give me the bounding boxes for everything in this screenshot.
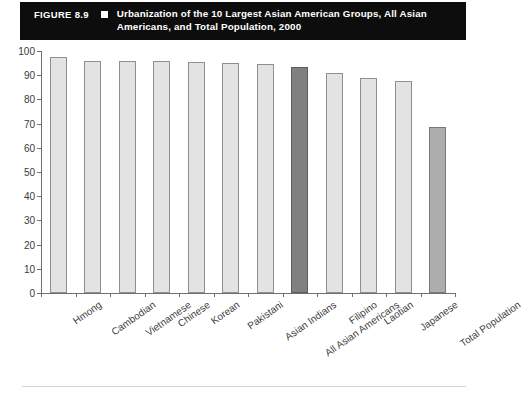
y-tick bbox=[37, 245, 41, 246]
bottom-divider bbox=[22, 386, 466, 387]
x-tick-label: Asian Indians bbox=[283, 299, 338, 342]
bar bbox=[429, 127, 446, 293]
bar bbox=[50, 57, 67, 293]
y-tick-label: 0 bbox=[29, 288, 35, 299]
square-bullet-icon bbox=[101, 11, 108, 18]
x-tick bbox=[352, 293, 353, 297]
y-tick-label: 90 bbox=[24, 70, 35, 81]
bar bbox=[188, 62, 205, 293]
x-tick bbox=[145, 293, 146, 297]
x-tick bbox=[421, 293, 422, 297]
y-axis-line bbox=[41, 51, 42, 294]
y-tick-label: 60 bbox=[24, 142, 35, 153]
y-tick-label: 80 bbox=[24, 94, 35, 105]
x-tick bbox=[248, 293, 249, 297]
y-tick bbox=[37, 196, 41, 197]
x-tick bbox=[76, 293, 77, 297]
bar bbox=[222, 63, 239, 293]
figure-header: FIGURE 8.9 Urbanization of the 10 Larges… bbox=[20, 2, 466, 40]
bar bbox=[119, 61, 136, 293]
x-tick bbox=[386, 293, 387, 297]
x-tick bbox=[41, 293, 42, 297]
x-tick bbox=[110, 293, 111, 297]
bar bbox=[291, 67, 308, 293]
y-tick-label: 50 bbox=[24, 167, 35, 178]
y-tick-label: 70 bbox=[24, 118, 35, 129]
x-tick-label: Hmong bbox=[71, 299, 104, 327]
y-tick bbox=[37, 172, 41, 173]
bar bbox=[360, 78, 377, 293]
x-tick-label: Japanese bbox=[418, 299, 460, 333]
x-tick bbox=[179, 293, 180, 297]
y-tick bbox=[37, 75, 41, 76]
y-tick bbox=[37, 148, 41, 149]
y-tick-label: 10 bbox=[24, 263, 35, 274]
bar bbox=[395, 81, 412, 293]
y-tick bbox=[37, 99, 41, 100]
plot-area: 0102030405060708090100 HmongCambodianVie… bbox=[41, 51, 455, 293]
y-tick-label: 30 bbox=[24, 215, 35, 226]
figure-number: FIGURE 8.9 bbox=[34, 8, 89, 21]
y-tick bbox=[37, 124, 41, 125]
x-tick bbox=[455, 293, 456, 297]
y-tick bbox=[37, 220, 41, 221]
bar bbox=[153, 61, 170, 293]
x-tick bbox=[214, 293, 215, 297]
y-tick-label: 20 bbox=[24, 239, 35, 250]
bar bbox=[257, 64, 274, 293]
bar bbox=[326, 73, 343, 293]
x-tick-label: Pakistani bbox=[245, 299, 285, 331]
y-tick bbox=[37, 51, 41, 52]
bar bbox=[84, 61, 101, 293]
x-tick-label: Korean bbox=[209, 299, 242, 327]
x-tick bbox=[317, 293, 318, 297]
y-tick-label: 100 bbox=[18, 46, 35, 57]
x-tick-label: Total Population bbox=[458, 299, 522, 349]
y-tick-label: 40 bbox=[24, 191, 35, 202]
x-tick bbox=[283, 293, 284, 297]
bar-chart: 0102030405060708090100 HmongCambodianVie… bbox=[0, 42, 486, 372]
y-tick bbox=[37, 269, 41, 270]
figure-title: Urbanization of the 10 Largest Asian Ame… bbox=[117, 8, 456, 33]
